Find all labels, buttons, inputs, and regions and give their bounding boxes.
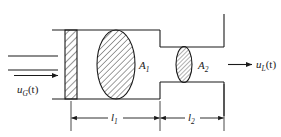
length-2-subscript: 2 [191, 117, 195, 126]
large-hatched-ellipse [97, 30, 135, 99]
orifice-2-body [176, 47, 192, 83]
inlet-flow-label: uG(t) [17, 83, 39, 98]
inlet-flow-argument: (t) [28, 83, 39, 96]
small-hatched-ellipse [176, 47, 192, 83]
dimension-extension-lines [71, 84, 224, 131]
end-plate-body [65, 30, 77, 99]
figure-canvas: uG(t) uL(t) A1 A2 l1 l2 [0, 0, 281, 137]
area-1-label: A1 [138, 59, 149, 74]
length-1-subscript: 1 [114, 117, 118, 126]
hydraulic-duct-figure: uG(t) uL(t) A1 A2 l1 l2 [0, 0, 281, 137]
area-2-subscript: 2 [205, 65, 209, 74]
outlet-flow-label: uL(t) [256, 58, 276, 73]
outlet-flow-argument: (t) [266, 58, 277, 71]
hatched-end-plate [65, 30, 77, 99]
inlet-pipe-walls [8, 56, 58, 70]
area-2-label: A2 [197, 59, 209, 74]
orifice-1-body [97, 30, 135, 99]
area-1-subscript: 1 [146, 65, 150, 74]
